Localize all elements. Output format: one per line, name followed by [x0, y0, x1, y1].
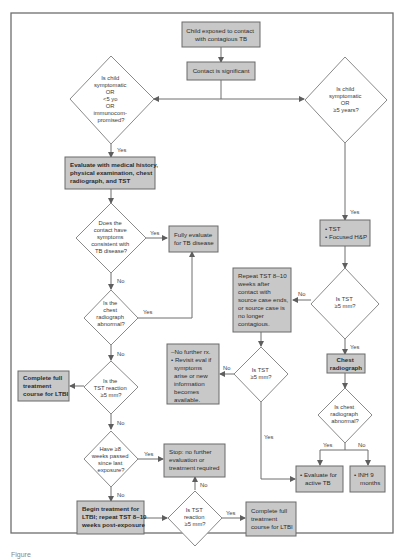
edge-label-yes: Yes [150, 230, 160, 236]
node-q-chest-abnormal-right: Is chest radiograph abnormal? [318, 388, 372, 443]
edge-label-yes: Yes [350, 209, 360, 215]
edge-label-no: No [358, 442, 365, 448]
svg-text:Contact is significant: Contact is significant [193, 67, 250, 74]
edge-label-no: No [117, 278, 124, 284]
tb-exposure-flowchart: Yes Yes No Yes No No Yes No No Yes Yes N… [0, 0, 402, 559]
node-q-tst-bottom: Is TST reaction ≥5 mm? [168, 491, 222, 546]
edge-label-no: No [117, 420, 124, 426]
figure-caption: Figure [11, 551, 31, 559]
node-q-chest-abnormal-left: Is the chest radiograph abnormal? [84, 290, 138, 345]
node-q-8-weeks: Have ≥8 weeks passed since last exposure… [84, 431, 138, 487]
node-evaluate-active-tb: • Evaluate for active TB [296, 466, 343, 492]
node-q-left-risk: Is child symptomatic OR <5 yo OR immunoc… [70, 56, 154, 144]
edge-label-yes: Yes [350, 344, 360, 350]
edge-label-yes: Yes [323, 442, 333, 448]
svg-text:Fully evaluate for TB di: Fully evaluate for TB disease [174, 231, 214, 246]
edge-label-yes: Yes [144, 451, 154, 457]
node-no-further-rx: –No further rx. • Revisit eval if sympto… [167, 344, 219, 404]
svg-text:Is TST ≥5 mm?: Is TST ≥5 mm? [335, 296, 357, 309]
node-tst-focused: • TST • Focused H&P [320, 220, 370, 246]
edge-label-no: No [200, 482, 207, 488]
edge-label-no: No [298, 291, 305, 297]
svg-text:Begin treatment for LTBI: Begin treatment for LTBI; repeat TST 8–1… [81, 505, 148, 528]
node-q-tst-right: Is TST ≥5 mm? [311, 268, 379, 339]
node-fully-evaluate: Fully evaluate for TB disease [169, 226, 218, 252]
svg-text:Is TST ≥5 mm?: Is TST ≥5 mm? [251, 367, 273, 380]
node-inh-9-months: • INH 9 months [350, 466, 385, 492]
node-complete-ltbi-bottom: Complete full treatment course for LTBI [246, 502, 296, 536]
svg-text:Child exposed to contact: Child exposed to contact with contagious… [186, 27, 256, 42]
edge-label-yes: Yes [226, 510, 236, 516]
edge-label-no: No [223, 365, 230, 371]
edge-label-yes: Yes [117, 147, 127, 153]
node-q-tst-middle: Is TST ≥5 mm? [234, 347, 288, 402]
node-repeat-tst: Repeat TST 8–10 weeks after contact with… [233, 268, 291, 332]
node-stop-no-further: Stop: no further evaluation or treatment… [164, 444, 225, 477]
node-q-right-risk: Is child symptomatic OR ≥5 years? [305, 57, 387, 143]
node-chest-radiograph: Chest radiograph [327, 354, 365, 373]
node-q-tst-left: Is the TST reaction ≥5 mm? [84, 361, 138, 414]
edge-label-yes: Yes [143, 309, 153, 315]
node-evaluate-history: Evaluate with medical history, physical … [65, 157, 160, 189]
edge-label-no: No [117, 492, 124, 498]
svg-text:Is TST reaction ≥5: Is TST reaction ≥5 mm? [184, 507, 206, 527]
node-start: Child exposed to contact with contagious… [182, 22, 260, 47]
svg-text:Is chest radiograph: Is chest radiograph abnormal? [330, 404, 359, 424]
node-contact-significant: Contact is significant [187, 62, 255, 80]
edge-label-no: No [117, 351, 124, 357]
edge-label-yes: Yes [264, 434, 274, 440]
node-q-symptoms: Does the contact have symptoms consisten… [76, 203, 146, 273]
node-begin-treatment: Begin treatment for LTBI; repeat TST 8–1… [77, 501, 148, 534]
node-complete-ltbi-left: Complete full treatment course for LTBI [18, 371, 69, 401]
